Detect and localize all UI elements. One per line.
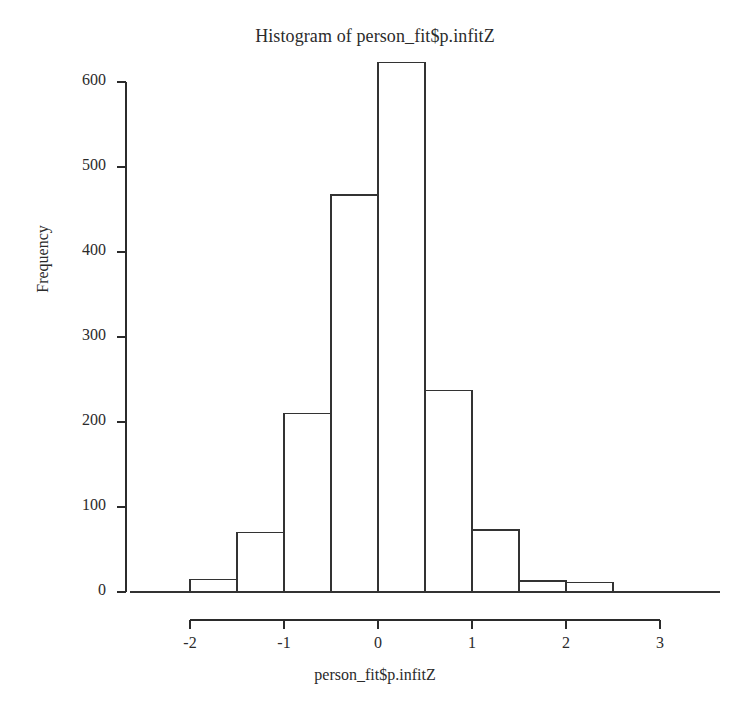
histogram-bar (566, 583, 613, 592)
histogram-bar (190, 579, 237, 592)
x-tick-label: -1 (264, 634, 304, 652)
x-axis (190, 620, 660, 629)
y-tick-label: 500 (54, 156, 106, 174)
y-tick-label: 300 (54, 326, 106, 344)
histogram-bar (519, 581, 566, 592)
histogram-bar (284, 414, 331, 593)
histogram-plot: Histogram of person_fit$p.infitZ Frequen… (0, 0, 750, 724)
histogram-bar (237, 533, 284, 593)
x-tick-label: 1 (452, 634, 492, 652)
histogram-bar (425, 391, 472, 592)
histogram-bar (331, 195, 378, 592)
x-tick-label: 3 (640, 634, 680, 652)
x-tick-label: 2 (546, 634, 586, 652)
y-tick-label: 400 (54, 241, 106, 259)
y-tick-label: 200 (54, 411, 106, 429)
histogram-bars (130, 62, 720, 592)
plot-canvas (0, 0, 750, 724)
histogram-bar (378, 62, 425, 592)
y-tick-label: 0 (54, 581, 106, 599)
histogram-bar (472, 530, 519, 592)
y-tick-label: 600 (54, 71, 106, 89)
x-tick-label: 0 (358, 634, 398, 652)
x-tick-label: -2 (170, 634, 210, 652)
y-tick-label: 100 (54, 496, 106, 514)
y-axis (117, 82, 126, 592)
